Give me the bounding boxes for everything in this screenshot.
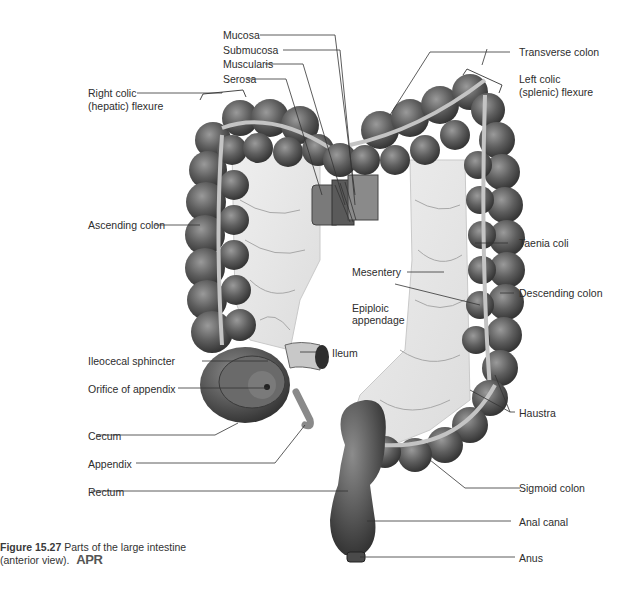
label-epiploic-appendage-1: Epiploic xyxy=(352,302,389,314)
label-serosa: Serosa xyxy=(223,73,256,85)
label-muscularis: Muscularis xyxy=(223,58,273,70)
label-right-colic-flexure-1: Right colic xyxy=(88,87,136,99)
label-cecum: Cecum xyxy=(88,430,121,442)
label-anal-canal: Anal canal xyxy=(519,516,568,528)
label-right-colic-flexure-2: (hepatic) flexure xyxy=(88,100,163,112)
label-submucosa: Submucosa xyxy=(223,44,278,56)
large-intestine-figure: Mucosa Submucosa Muscularis Serosa Trans… xyxy=(0,0,631,597)
label-ascending-colon: Ascending colon xyxy=(88,219,165,231)
label-sigmoid-colon: Sigmoid colon xyxy=(519,482,585,494)
label-descending-colon: Descending colon xyxy=(519,287,602,299)
label-left-colic-flexure-1: Left colic xyxy=(519,73,560,85)
caption-line-2: (anterior view). xyxy=(0,554,69,566)
label-epiploic-appendage-2: appendage xyxy=(352,314,405,326)
ileum-shape xyxy=(285,343,329,371)
label-ileum: Ileum xyxy=(332,347,358,359)
label-left-colic-flexure-2: (splenic) flexure xyxy=(519,86,593,98)
figure-number: Figure 15.27 xyxy=(0,541,61,553)
label-mesentery: Mesentery xyxy=(352,266,401,278)
right-flexure-bracket xyxy=(200,90,246,100)
figure-caption: Figure 15.27 Parts of the large intestin… xyxy=(0,541,260,566)
label-orifice-of-appendix: Orifice of appendix xyxy=(88,383,176,395)
label-transverse-colon: Transverse colon xyxy=(519,46,599,58)
label-haustra: Haustra xyxy=(519,407,556,419)
label-rectum: Rectum xyxy=(88,486,124,498)
label-appendix: Appendix xyxy=(88,458,132,470)
label-anus: Anus xyxy=(519,552,543,564)
label-mucosa: Mucosa xyxy=(223,29,260,41)
apr-badge-icon: APR xyxy=(76,553,102,566)
label-ileocecal-sphincter: Ileocecal sphincter xyxy=(88,355,175,367)
descending-colon-shape xyxy=(462,93,525,390)
label-taenia-coli: Taenia coli xyxy=(519,237,569,249)
rectum-shape xyxy=(330,400,386,562)
